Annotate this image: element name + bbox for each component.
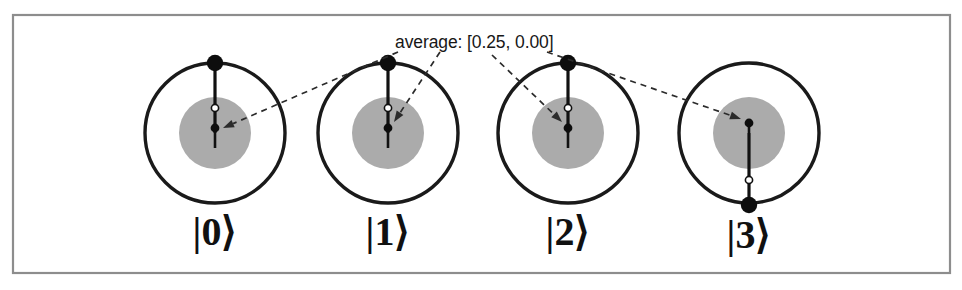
clock-diagram-figure: average: [0.25, 0.00] |0⟩|1⟩|2⟩|3⟩ xyxy=(0,0,962,290)
average-dot xyxy=(564,124,573,133)
figure-container: average: [0.25, 0.00] |0⟩|1⟩|2⟩|3⟩ xyxy=(0,0,962,290)
ket-label-1: |1⟩ xyxy=(366,209,411,254)
figure-border xyxy=(13,15,950,273)
ket-label-0: |0⟩ xyxy=(193,209,238,254)
hollow-tick-marker xyxy=(564,104,571,111)
hollow-tick-marker xyxy=(384,104,391,111)
average-dot xyxy=(745,119,754,128)
ket-label-2: |2⟩ xyxy=(546,209,591,254)
rim-endpoint-dot xyxy=(741,197,757,213)
average-dot xyxy=(384,124,393,133)
hollow-tick-marker xyxy=(211,104,218,111)
average-dot xyxy=(211,124,220,133)
ket-label-3: |3⟩ xyxy=(727,212,772,257)
average-annotation-label: average: [0.25, 0.00] xyxy=(395,32,553,52)
rim-endpoint-dot xyxy=(207,55,223,71)
hollow-tick-marker xyxy=(745,176,752,183)
